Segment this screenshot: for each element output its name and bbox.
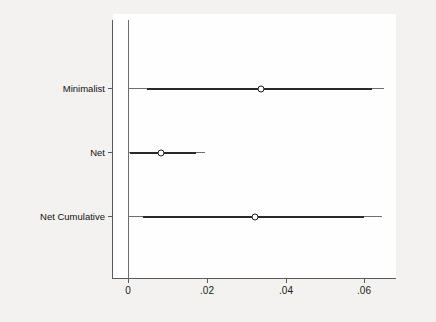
x-tick-mark-3	[364, 279, 365, 283]
x-tick-mark-0	[128, 279, 129, 283]
coefficient-plot: 0 .02 .04 .06 Minimalist Net Net Cumulat…	[0, 0, 436, 322]
x-axis-line	[112, 278, 396, 279]
x-tick-mark-1	[207, 279, 208, 283]
y-tick-mark-net-cumulative	[108, 216, 113, 217]
y-tick-label-minimalist: Minimalist	[63, 83, 105, 94]
x-tick-label-1: .02	[200, 285, 214, 296]
point-marker-minimalist	[258, 85, 265, 92]
plot-area	[113, 14, 396, 279]
x-tick-label-0: 0	[125, 285, 131, 296]
x-tick-mark-2	[286, 279, 287, 283]
y-tick-label-net-cumulative: Net Cumulative	[40, 211, 105, 222]
y-tick-mark-minimalist	[108, 88, 113, 89]
x-tick-label-2: .04	[279, 285, 293, 296]
y-axis-line	[112, 20, 113, 279]
y-tick-mark-net	[108, 152, 113, 153]
x-tick-label-3: .06	[357, 285, 371, 296]
y-tick-label-net: Net	[90, 147, 105, 158]
point-marker-net	[158, 149, 165, 156]
point-marker-net-cumulative	[251, 213, 258, 220]
